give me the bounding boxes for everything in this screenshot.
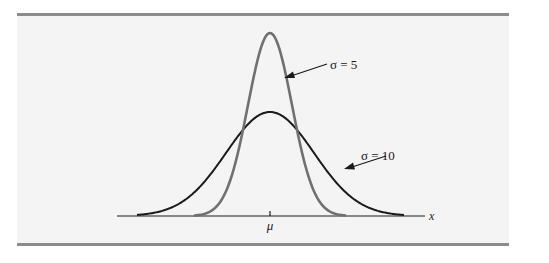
label-sigma-10: σ = 10	[361, 148, 395, 163]
chart-svg: σ = 5 σ = 10 μ x	[0, 0, 549, 263]
top-rule	[17, 13, 509, 16]
normal-distribution-figure: σ = 5 σ = 10 μ x	[0, 0, 549, 263]
plot-background	[17, 14, 509, 245]
label-x-axis: x	[428, 209, 435, 223]
label-sigma-5: σ = 5	[330, 57, 357, 72]
bottom-rule	[17, 243, 509, 246]
label-mu: μ	[266, 218, 274, 233]
